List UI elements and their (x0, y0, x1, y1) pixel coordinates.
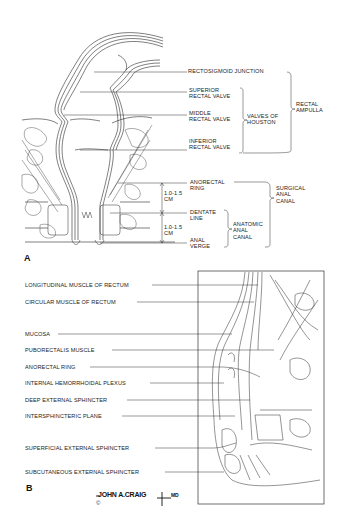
label-line: RECTAL VALVE (189, 93, 230, 99)
panel-b-letter: B (26, 483, 33, 493)
label-anal-verge: ANAL VERGE (190, 237, 210, 250)
artist-signature: JOHN A.CRAIG (98, 491, 146, 498)
label-line: RING (190, 185, 225, 191)
label-rectal-ampulla: RECTAL AMPULLA (296, 101, 323, 114)
label-superior-rectal-valve: SUPERIOR RECTAL VALVE (189, 87, 230, 100)
label-line: CM (164, 230, 182, 236)
label-deep-external-sphincter: DEEP EXTERNAL SPHINCTER (25, 397, 107, 403)
label-inferior-rectal-valve: INFERIOR RECTAL VALVE (189, 138, 230, 151)
label-rectosigmoid-junction: RECTOSIGMOID JUNCTION (188, 68, 264, 74)
label-valves-of-houston: VALVES OF HOUSTON (247, 113, 278, 126)
copyright-symbol: © (96, 500, 100, 506)
label-subcutaneous-external-sphincter: SUBCUTANEOUS EXTERNAL SPHINCTER (25, 469, 139, 475)
panel-a-letter: A (24, 253, 31, 263)
label-line: RECTAL VALVE (189, 116, 230, 122)
label-dentate-line: DENTATE LINE (190, 209, 216, 222)
label-superficial-external-sphincter: SUPERFICIAL EXTERNAL SPHINCTER (25, 445, 129, 451)
label-circular-muscle: CIRCULAR MUSCLE OF RECTUM (25, 299, 116, 305)
rectum-right-wall (100, 55, 160, 240)
label-internal-hemorrhoidal-plexus: INTERNAL HEMORRHOIDAL PLEXUS (25, 380, 126, 386)
label-mucosa: MUCOSA (25, 331, 50, 337)
label-line: CANAL (276, 198, 305, 204)
label-line: HOUSTON (247, 119, 278, 125)
label-line: CANAL (233, 234, 263, 240)
label-surgical-anal-canal: SURGICAL ANAL CANAL (276, 185, 305, 204)
label-line: AMPULLA (296, 107, 323, 113)
label-line: CM (164, 196, 182, 202)
label-anorectal-ring-b: ANORECTAL RING (25, 364, 76, 370)
label-middle-rectal-valve: MIDDLE RECTAL VALVE (189, 110, 230, 123)
artist-signature-suffix: MD (171, 492, 178, 498)
label-puborectalis-muscle: PUBORECTALIS MUSCLE (25, 347, 95, 353)
label-measure-upper: 1.0-1.5 CM (164, 190, 182, 203)
label-line: RECTAL VALVE (189, 144, 230, 150)
label-line: LINE (190, 215, 216, 221)
label-longitudinal-muscle: LONGITUDINAL MUSCLE OF RECTUM (25, 282, 129, 288)
label-measure-lower: 1.0-1.5 CM (164, 224, 182, 237)
label-intersphincteric-plane: INTERSPHINCTERIC PLANE (25, 413, 102, 419)
label-anorectal-ring: ANORECTAL RING (190, 179, 225, 192)
label-anatomic-anal-canal: ANATOMIC ANAL CANAL (233, 221, 263, 240)
panel-b-frame (198, 271, 324, 504)
label-line: VERGE (190, 243, 210, 249)
rectum-left-wall (55, 33, 163, 240)
